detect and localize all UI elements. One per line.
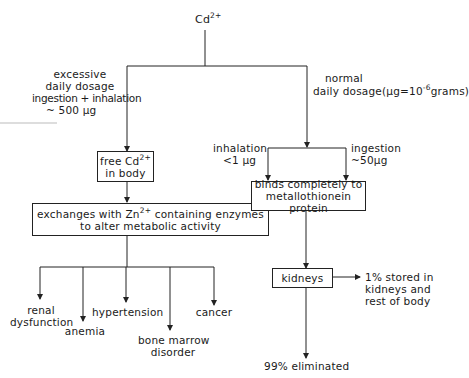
exchange-line-1: exchanges with Zn2+ containing enzymes (37, 208, 264, 220)
hypertension-line-1: hypertension (92, 306, 162, 318)
root-charge: 2+ (210, 11, 221, 20)
inhalation-label: inhalation <1 μg (213, 142, 267, 166)
effect-hypertension: hypertension (92, 306, 162, 318)
normal-dosage-label: normal daily dosage(μg=10-6grams) (313, 72, 469, 97)
excessive-line-2: daily dosage (32, 80, 128, 92)
renal-line-1: renal (10, 304, 72, 316)
excessive-line-1: excessive (32, 68, 128, 80)
exchange-charge: 2+ (140, 206, 151, 215)
metallothionein-box: binds completely to metallothionein prot… (251, 181, 366, 211)
stored-line-3: rest of body (365, 295, 434, 307)
exchange-enzymes-box: exchanges with Zn2+ containing enzymes t… (32, 203, 269, 236)
stored-label: 1% stored in kidneys and rest of body (365, 271, 434, 307)
normal-line-1: normal (313, 72, 469, 84)
ingestion-line-2: ~50μg (351, 154, 401, 166)
binds-line-1: binds completely to (255, 178, 363, 190)
normal-line-2-pre: daily dosage(μg=10 (313, 85, 423, 97)
normal-line-2-post: grams) (431, 85, 469, 97)
binds-line-2: metallothionein protein (252, 190, 365, 214)
ingestion-line-1: ingestion (351, 142, 401, 154)
inhalation-line-2: <1 μg (213, 154, 267, 166)
kidneys-box: kidneys (272, 268, 333, 288)
exchange-pre: exchanges with Zn (37, 208, 140, 220)
inhalation-line-1: inhalation (213, 142, 267, 154)
stored-line-2: kidneys and (365, 283, 434, 295)
effect-anemia: anemia (60, 325, 110, 337)
cancer-line-1: cancer (193, 306, 235, 318)
exchange-line-2: to alter metabolic activity (80, 220, 221, 232)
free-cd-charge: 2+ (139, 153, 150, 162)
normal-line-2-exp: -6 (423, 83, 431, 92)
bone-marrow-line-2: disorder (138, 346, 208, 358)
free-cd-line-1: free Cd2+ (100, 155, 151, 167)
normal-line-2: daily dosage(μg=10-6grams) (313, 85, 469, 97)
effect-bone-marrow-disorder: bone marrow disorder (138, 334, 208, 358)
root-cd-ion: Cd2+ (195, 14, 222, 26)
free-cd-base: free Cd (100, 155, 139, 167)
root-base: Cd (195, 13, 210, 26)
excessive-dosage-label: excessive daily dosage ingestion + inhal… (32, 68, 128, 116)
stored-line-1: 1% stored in (365, 271, 434, 283)
ingestion-label: ingestion ~50μg (351, 142, 401, 166)
excessive-line-4: ~ 500 μg (32, 104, 128, 116)
bone-marrow-line-1: bone marrow (138, 334, 208, 346)
eliminated-label: 99% eliminated (264, 360, 349, 372)
free-cd-box: free Cd2+ in body (97, 151, 154, 182)
excessive-line-3: ingestion + inhalation (32, 92, 128, 104)
free-cd-line-2: in body (105, 167, 145, 179)
kidneys-label: kidneys (282, 272, 324, 284)
exchange-post: containing enzymes (151, 208, 264, 220)
effect-cancer: cancer (193, 306, 235, 318)
anemia-line-1: anemia (60, 325, 110, 337)
